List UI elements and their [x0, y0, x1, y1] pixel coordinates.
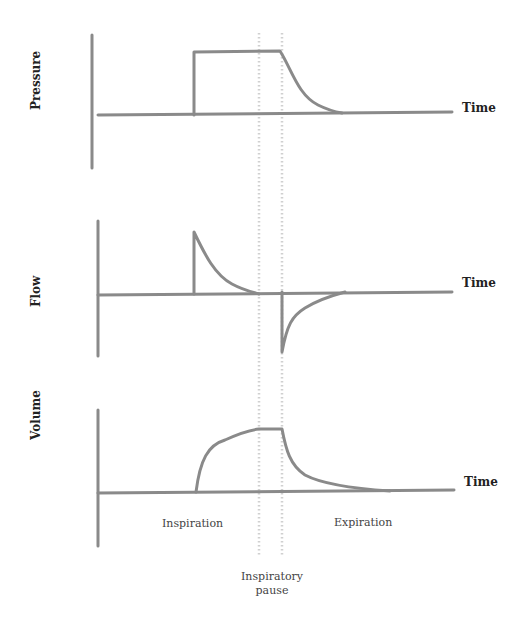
- flow-axis-label: Flow: [29, 275, 43, 307]
- pressure-panel: Pressure Time: [29, 35, 496, 168]
- ventilator-waveform-diagram: Pressure Time Flow Time Volume Time Insp…: [0, 0, 524, 632]
- expiration-label: Expiration: [334, 516, 392, 529]
- volume-axis-label: Volume: [29, 390, 43, 441]
- pressure-time-axis: [98, 112, 452, 115]
- pressure-axis-label: Pressure: [29, 50, 43, 110]
- pressure-time-label: Time: [462, 101, 496, 115]
- flow-time-label: Time: [462, 276, 496, 290]
- flow-inspiratory-waveform: [194, 232, 259, 294]
- volume-waveform: [196, 429, 390, 492]
- flow-panel: Flow Time: [29, 221, 496, 356]
- volume-time-label: Time: [464, 475, 498, 489]
- volume-panel: Volume Time: [29, 390, 498, 546]
- volume-time-axis: [98, 490, 454, 493]
- flow-expiratory-waveform: [282, 292, 345, 352]
- inspiratory-pause-label-line1: Inspiratory: [241, 570, 304, 583]
- pressure-waveform: [194, 51, 342, 115]
- flow-time-axis: [98, 292, 452, 295]
- inspiratory-pause-label-line2: pause: [256, 584, 289, 597]
- inspiration-label: Inspiration: [162, 517, 223, 530]
